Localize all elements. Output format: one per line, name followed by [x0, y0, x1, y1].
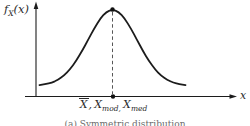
y-axis-label-paren: (x) [14, 2, 29, 16]
x-axis-arrow-icon [230, 94, 238, 99]
median-sub: med [131, 104, 147, 113]
distribution-figure: fX(x) x X, Xmod, Xmed (a) Symmetric dist… [0, 0, 250, 126]
x-axis-label: x [240, 89, 246, 102]
y-axis-label: fX(x) [4, 2, 29, 18]
peak-dot [110, 7, 114, 11]
mean-mode-median-label: X, Xmod, Xmed [58, 98, 168, 113]
mean-comma: , [89, 98, 93, 111]
mean-xbar: X [79, 98, 89, 111]
median-x: X [123, 98, 131, 111]
y-axis-arrow-icon [34, 2, 39, 10]
mode-sub: mod, [102, 104, 121, 113]
figure-caption: (a) Symmetric distribution [0, 119, 250, 126]
mode-x: X [94, 98, 102, 111]
